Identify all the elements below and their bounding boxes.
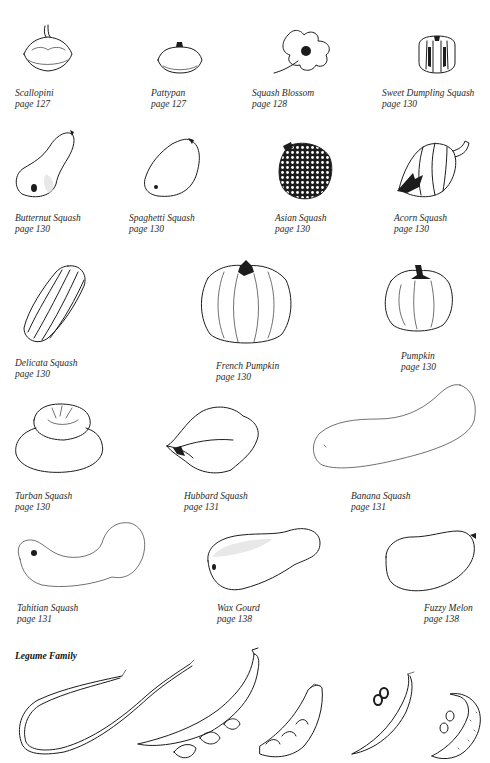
caption-banana-squash: Banana Squash page 131 [351, 491, 410, 513]
acorn-squash-illustration [393, 137, 478, 201]
banana-squash-illustration [310, 381, 480, 473]
caption-scallopini: Scallopini page 127 [15, 88, 54, 110]
item-page: page 131 [17, 614, 78, 625]
item-name: Pattypan [151, 88, 186, 99]
caption-sweet-dumpling-squash: Sweet Dumpling Squash page 130 [382, 88, 474, 110]
caption-asian-squash: Asian Squash page 130 [275, 213, 326, 235]
item-name: Acorn Squash [394, 213, 447, 224]
wax-gourd-illustration [202, 527, 322, 593]
item-page: page 130 [216, 372, 279, 383]
caption-turban-squash: Turban Squash page 130 [15, 491, 72, 513]
sweet-dumpling-illustration [414, 33, 460, 75]
item-name: Sweet Dumpling Squash [382, 88, 474, 99]
item-name: Asian Squash [275, 213, 326, 224]
bean-with-seeds-illustration [348, 672, 424, 758]
item-name: Butternut Squash [15, 213, 81, 224]
caption-pattypan: Pattypan page 127 [151, 88, 186, 110]
open-pea-pod-illustration [256, 682, 330, 762]
item-name: French Pumpkin [216, 361, 279, 372]
caption-hubbard-squash: Hubbard Squash page 131 [184, 491, 248, 513]
item-page: page 127 [15, 99, 54, 110]
fuzzy-melon-illustration [382, 527, 478, 595]
turban-squash-illustration [12, 400, 108, 476]
item-page: page 130 [394, 224, 447, 235]
lima-bean-pod-illustration [134, 648, 264, 763]
item-page: page 130 [382, 99, 474, 110]
caption-pumpkin: Pumpkin page 130 [401, 351, 436, 373]
spaghetti-squash-illustration [142, 136, 204, 200]
item-page: page 130 [275, 224, 326, 235]
item-name: Squash Blossom [252, 88, 314, 99]
item-page: page 130 [401, 362, 436, 373]
item-name: Pumpkin [401, 351, 436, 362]
item-page: page 127 [151, 99, 186, 110]
pattypan-illustration [155, 38, 205, 76]
caption-spaghetti-squash: Spaghetti Squash page 130 [129, 213, 195, 235]
item-name: Hubbard Squash [184, 491, 248, 502]
item-name: Banana Squash [351, 491, 410, 502]
item-name: Spaghetti Squash [129, 213, 195, 224]
item-name: Wax Gourd [217, 603, 260, 614]
asian-squash-illustration [275, 140, 335, 202]
caption-tahitian-squash: Tahitian Squash page 131 [17, 603, 78, 625]
hubbard-squash-illustration [163, 402, 263, 476]
caption-french-pumpkin: French Pumpkin page 130 [216, 361, 279, 383]
item-name: Tahitian Squash [17, 603, 78, 614]
french-pumpkin-illustration [198, 258, 294, 346]
item-page: page 138 [217, 614, 260, 625]
item-name: Fuzzy Melon [424, 603, 473, 614]
squash-blossom-illustration [270, 25, 340, 77]
item-page: page 131 [184, 502, 248, 513]
item-page: page 130 [15, 224, 81, 235]
item-page: page 128 [252, 99, 314, 110]
item-page: page 130 [15, 502, 72, 513]
butternut-illustration [12, 130, 82, 202]
scallopini-illustration [18, 22, 78, 77]
caption-fuzzy-melon: Fuzzy Melon page 138 [424, 603, 473, 625]
caption-acorn-squash: Acorn Squash page 130 [394, 213, 447, 235]
speckled-bean-pod-illustration [428, 690, 488, 760]
item-page: page 130 [15, 369, 78, 380]
caption-squash-blossom: Squash Blossom page 128 [252, 88, 314, 110]
item-name: Turban Squash [15, 491, 72, 502]
tahitian-squash-illustration [12, 519, 148, 593]
item-name: Scallopini [15, 88, 54, 99]
caption-delicata-squash: Delicata Squash page 130 [15, 358, 78, 380]
delicata-illustration [20, 262, 90, 344]
item-name: Delicata Squash [15, 358, 78, 369]
item-page: page 131 [351, 502, 410, 513]
item-page: page 138 [424, 614, 473, 625]
item-page: page 130 [129, 224, 195, 235]
pumpkin-illustration [381, 263, 455, 333]
caption-butternut-squash: Butternut Squash page 130 [15, 213, 81, 235]
caption-wax-gourd: Wax Gourd page 138 [217, 603, 260, 625]
